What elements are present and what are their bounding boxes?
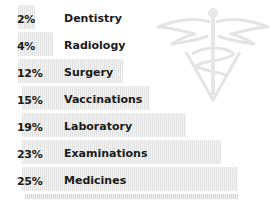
bar-medicines xyxy=(22,169,238,191)
category-label: Radiology xyxy=(64,39,125,52)
value-label: 23% xyxy=(17,148,42,161)
category-label: Vaccinations xyxy=(64,93,142,106)
category-label: Dentistry xyxy=(64,12,122,25)
value-label: 12% xyxy=(17,67,42,80)
value-label: 4% xyxy=(17,40,35,53)
category-label: Examinations xyxy=(64,147,147,160)
value-label: 25% xyxy=(17,175,42,188)
value-label: 2% xyxy=(17,13,35,26)
category-label: Medicines xyxy=(64,174,126,187)
caduceus-emblem-icon xyxy=(150,2,275,102)
category-label: Surgery xyxy=(64,66,113,79)
value-label: 15% xyxy=(17,94,42,107)
chart-baseline xyxy=(25,194,238,199)
category-label: Laboratory xyxy=(64,120,132,133)
value-label: 19% xyxy=(17,121,42,134)
